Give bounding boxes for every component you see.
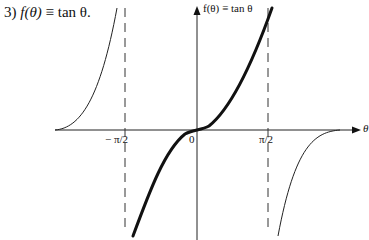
- x-axis-label: θ: [363, 122, 368, 134]
- origin-label: 0: [189, 133, 195, 145]
- y-axis-label: f(θ) ≡ tan θ: [203, 2, 252, 14]
- tick-pi-half: π/2: [259, 133, 273, 145]
- x-axis-arrow-icon: [352, 127, 361, 134]
- tan-right-branch: [278, 130, 340, 236]
- tan-left-branch: [55, 8, 117, 130]
- tick-neg-pi-half: − π/2: [105, 133, 128, 145]
- y-axis-arrow-icon: [194, 6, 201, 15]
- tan-plot: [0, 0, 369, 240]
- tan-principal-branch: [133, 8, 272, 236]
